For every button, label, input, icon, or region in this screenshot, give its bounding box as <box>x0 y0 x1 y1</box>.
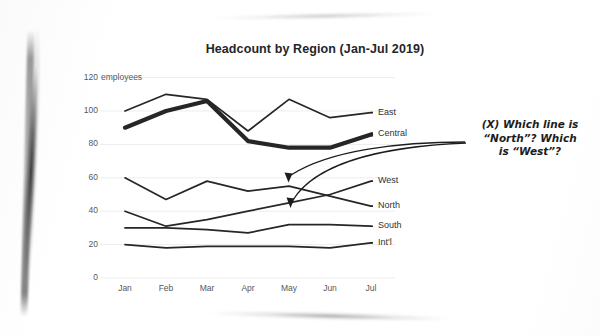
x-tick-label-jul: Jul <box>351 283 391 293</box>
x-tick-label-apr: Apr <box>228 283 268 293</box>
y-tick-label: 40 <box>58 205 98 215</box>
series-label-south: South <box>378 220 402 230</box>
x-tick-label-jan: Jan <box>105 283 145 293</box>
x-tick-label-jun: Jun <box>310 283 350 293</box>
x-tick-label-mar: Mar <box>187 283 227 293</box>
y-tick-label: 60 <box>58 172 98 182</box>
x-tick-label-feb: Feb <box>146 283 186 293</box>
annotation-line-2: “North”? Which <box>464 132 596 146</box>
y-tick-label: 120 <box>58 72 98 82</box>
y-tick-label: 80 <box>58 138 98 148</box>
y-tick-label: 100 <box>58 105 98 115</box>
series-line-north <box>125 178 371 206</box>
series-label-east: East <box>378 107 396 117</box>
y-axis-unit: employees <box>101 72 142 82</box>
series-label-central: Central <box>378 128 407 138</box>
scanned-page: Headcount by Region (Jan-Jul 2019) 02040… <box>0 0 600 336</box>
annotation-line-1: (X) Which line is <box>464 118 596 132</box>
series-line-intl <box>125 243 371 248</box>
gridlines <box>100 78 395 278</box>
series-label-intl: Int'l <box>378 237 392 247</box>
arrow-curve-west <box>293 143 466 200</box>
x-tick-label-may: May <box>269 283 309 293</box>
y-tick-label: 0 <box>58 272 98 282</box>
series-label-west: West <box>378 175 398 185</box>
handwritten-annotation: (X) Which line is “North”? Which is “Wes… <box>464 118 596 159</box>
y-axis-unit-label: employees <box>101 72 142 82</box>
series-label-north: North <box>378 200 400 210</box>
series-line-central <box>125 101 371 148</box>
series-line-south <box>125 225 371 233</box>
annotation-line-3: is “West”? <box>464 145 596 159</box>
series-lines <box>125 94 373 248</box>
series-line-west <box>125 181 371 226</box>
y-tick-label: 20 <box>58 239 98 249</box>
